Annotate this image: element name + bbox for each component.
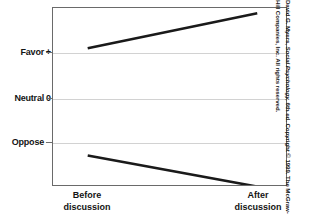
credit-author: David G. Myers, [285, 0, 292, 45]
y-axis-label-favor: Favor [0, 47, 44, 57]
source-credit: David G. Myers, Social Psychology, 6th e… [267, 0, 293, 220]
credit-work-title: Social Psychology, [285, 47, 292, 101]
x-axis-label-after-line1: After [247, 190, 268, 200]
series-line-favoring [88, 13, 258, 48]
y-axis-label-oppose: Oppose [0, 137, 44, 147]
x-axis-label-before-line2: discussion [42, 201, 132, 213]
group-polarization-chart: Favor + Neutral 0 Oppose – Before discus… [0, 0, 325, 220]
series-line-opposing [88, 156, 258, 185]
x-axis-label-before: Before discussion [42, 189, 132, 213]
data-lines [53, 8, 286, 185]
y-axis-label-neutral: Neutral [0, 93, 44, 103]
x-axis-label-before-line1: Before [73, 190, 102, 200]
plot-area [52, 7, 287, 186]
